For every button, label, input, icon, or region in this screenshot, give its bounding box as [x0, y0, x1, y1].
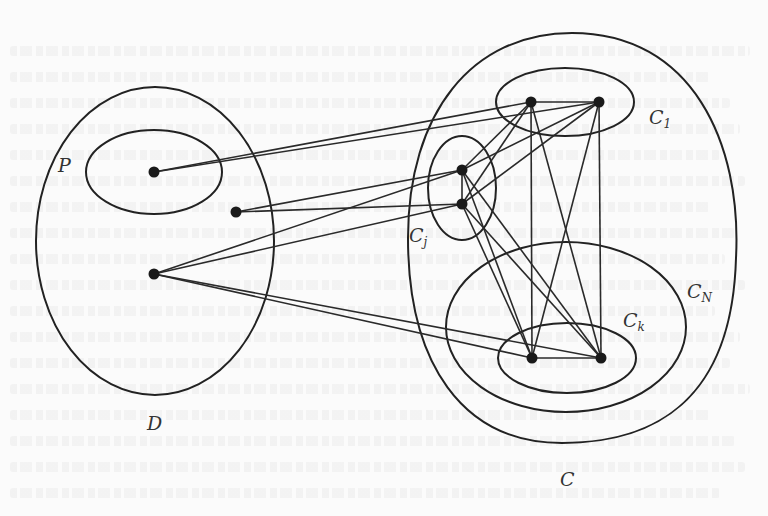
vertex-d1: [231, 207, 242, 218]
set-label-c1: C1: [649, 108, 671, 130]
diagram-canvas: P D C C1 Cj CN Ck: [0, 0, 768, 516]
vertex-cjb: [457, 199, 468, 210]
label-cj-main: C: [409, 224, 424, 246]
edge-d2-cja: [154, 170, 462, 274]
label-cn-sub: N: [702, 291, 713, 305]
graph-edges: [154, 102, 601, 358]
label-p-text: P: [58, 154, 71, 176]
vertex-d2: [149, 269, 160, 280]
edge-c1a-cka: [531, 102, 532, 358]
set-label-p: P: [58, 156, 71, 175]
set-label-cj: Cj: [409, 226, 427, 248]
set-ellipse-cn: [446, 242, 686, 412]
label-ck-sub: k: [638, 320, 645, 334]
edge-cjb-cka: [462, 204, 532, 358]
edge-cja-cka: [462, 170, 532, 358]
set-ellipse-d: [36, 87, 274, 395]
vertex-cka: [527, 353, 538, 364]
set-label-cn: CN: [687, 282, 712, 304]
vertex-c1b: [594, 97, 605, 108]
set-label-d: D: [147, 414, 162, 433]
label-cn-main: C: [687, 280, 702, 302]
vertex-p: [149, 167, 160, 178]
edge-p-c1a: [154, 102, 531, 172]
vertex-cja: [457, 165, 468, 176]
set-label-c: C: [560, 470, 575, 489]
set-ellipse-c: [408, 33, 736, 443]
set-label-ck: Ck: [623, 311, 645, 333]
edge-c1b-ckb: [599, 102, 601, 358]
edge-d2-cka: [154, 274, 532, 358]
label-cj-sub: j: [424, 235, 428, 249]
edge-d2-ckb: [154, 274, 601, 358]
label-c-text: C: [560, 468, 575, 490]
graph-svg: [0, 0, 768, 516]
vertex-ckb: [596, 353, 607, 364]
label-c1-main: C: [649, 106, 664, 128]
label-ck-main: C: [623, 309, 638, 331]
label-c1-sub: 1: [664, 117, 672, 131]
set-ellipses: [36, 33, 736, 443]
vertex-c1a: [526, 97, 537, 108]
label-d-text: D: [147, 412, 162, 434]
